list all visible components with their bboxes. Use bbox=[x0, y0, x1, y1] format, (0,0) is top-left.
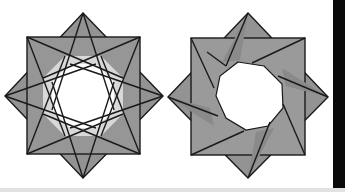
right-edge-bar bbox=[333, 0, 345, 188]
star-figures bbox=[0, 0, 345, 192]
bottom-edge-strip bbox=[0, 188, 345, 192]
left-star-figure bbox=[5, 13, 163, 178]
right-star-figure bbox=[168, 13, 328, 178]
diagram-canvas bbox=[0, 0, 345, 192]
